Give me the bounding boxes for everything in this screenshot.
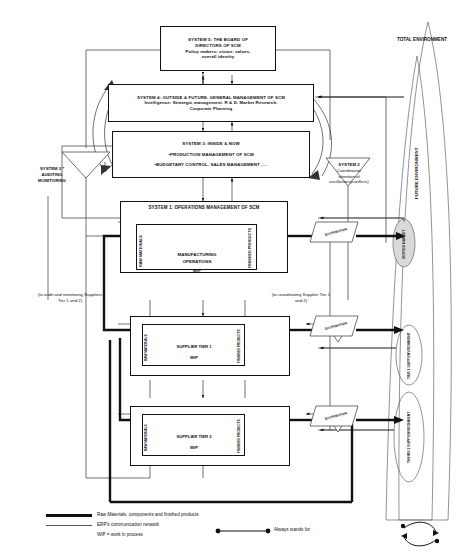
system1-manufacturing-label: MANUFACTURING [152,252,242,258]
system5-line-4: overall identity [202,54,235,60]
thick-line-swatch [46,514,92,516]
system2-line-1: SYSTEM 2 [338,162,359,167]
system1-wip-label: WIP [152,268,242,274]
legend-row-materials: Raw Materials, components and finished p… [46,512,446,519]
vsm-diagram: SYSTEM 5: THE BOARD OF DIRECTORS OF SCM … [0,0,459,559]
system4-line-3: Corporate Planning [190,106,233,112]
supplier-tier1-wip-label: WIP [156,355,232,361]
served-market-label: SERVED MARKET [398,222,411,266]
system2-line-2: Coordination [337,168,361,173]
system5-box[interactable]: SYSTEM 5: THE BOARD OF DIRECTORS OF SCM … [160,26,276,71]
total-environment-label: TOTAL ENVIRONMENT [396,37,448,43]
system1-raw-materials-label: RAW MATERIALS [136,232,147,270]
audit-note: (to audit and monitoring Suppliers Tier … [36,292,104,304]
system3-box[interactable]: SYSTEM 3: INSIDE & NOW •PRODUCTION MANAG… [112,131,310,178]
legend-erp-label: ERP's communication network [97,522,159,529]
system4-box[interactable]: SYSTEM 4: OUTSIDE & FUTURE. GENERAL MANA… [108,84,314,122]
system2-line-4: oscillations(conflicts) [329,179,368,184]
legend-materials-label: Raw Materials, components and finished p… [97,512,199,519]
supplier-tier1-title: SUPPLIER TIER 1 [156,344,232,350]
legend-always-label: Always stands for [274,527,310,532]
supplier-tier2-wip-label: WIP [156,445,232,451]
supplier-tier1-raw-label: RAW MATERIALS [142,330,152,366]
supplier-tier2-raw-label: RAW MATERIALS [142,420,152,456]
tier1-environment-label: TIER 1 SUPP ENVIRONMENT [403,328,416,384]
legend: Raw Materials, components and finished p… [46,512,446,542]
system3-line-3: •BUDGETARY CONTROL. SALES MANAGEMENT ...… [154,162,267,168]
system1-title: SYSTEM 1: OPERATIONS MANAGEMENT OF SCM [149,205,260,211]
thin-line-swatch [46,525,92,526]
system3-star-line-3: MONITORING [38,178,66,183]
legend-wip-label: WIP = work in process [46,532,143,539]
system3-line-2: •PRODUCTION MANAGEMENT OF SCM [168,152,253,158]
system1-operations-label: OPERATIONS [152,259,242,265]
supplier-tier2-finished-label: FINISHED PRODUCTS [234,416,245,456]
system1-finished-products-label: FINISHED PRODUCTS [244,226,257,270]
legend-row-wip: WIP = work in process [46,532,446,539]
system3-line-1: SYSTEM 3: INSIDE & NOW [182,141,240,147]
tier2-environment-label: THEIRS 2 SUPP ENVIRONMENT [403,404,416,470]
supplier-tier1-finished-label: FINISHED PRODUCTS [234,326,245,366]
coordinate-note: (to coordinating Supplier Tier 1 and 2) [268,292,334,304]
system3-star-line-1: SYSTEM 3 * [40,166,64,171]
system2-label: SYSTEM 2 Coordination attention of oscil… [312,162,386,185]
system3-star-label: SYSTEM 3 * AUDITING MONITORING [14,166,90,183]
system3-star-line-2: AUDITING [42,172,63,177]
supplier-tier2-title: SUPPLIER TIER 2 [156,434,232,440]
system2-line-3: attention of [338,174,359,179]
legend-row-erp: ERP's communication network [46,522,446,529]
future-environment-label: FUTURE ENVIRONMENT [410,130,424,216]
